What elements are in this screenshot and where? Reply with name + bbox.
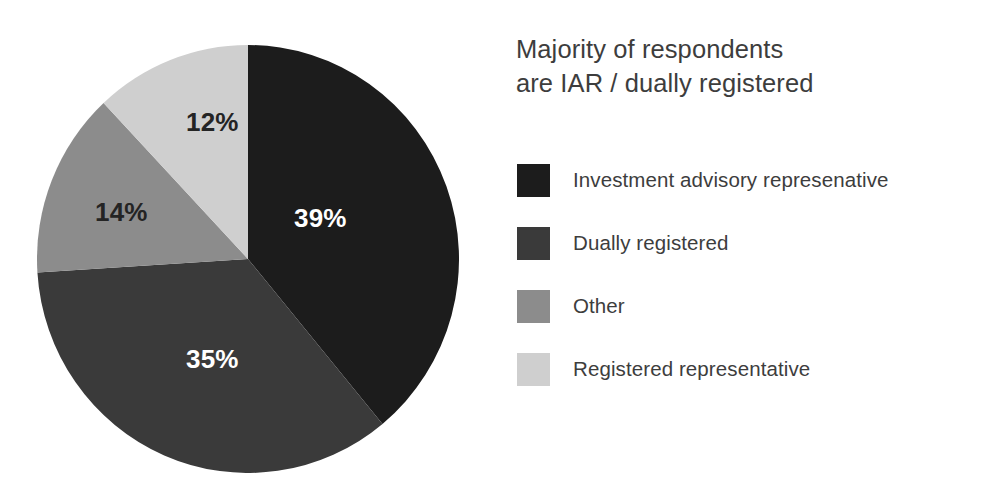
pie-value-label-other: 14%: [95, 199, 148, 225]
chart-title: Majority of respondents are IAR / dually…: [516, 33, 986, 101]
legend-list: Investment advisory represenative Dually…: [517, 154, 997, 406]
legend-swatch-icon: [517, 227, 550, 260]
legend-item-label: Dually registered: [573, 231, 729, 255]
legend-item-dually-registered[interactable]: Dually registered: [517, 217, 997, 269]
legend-item-investment-advisory-represenative[interactable]: Investment advisory represenative: [517, 154, 997, 206]
legend-item-label: Registered representative: [573, 357, 810, 381]
pie-chart-figure: 39% 35% 14% 12%: [0, 0, 500, 496]
legend-item-label: Investment advisory represenative: [573, 168, 889, 192]
legend-panel: Majority of respondents are IAR / dually…: [505, 0, 1004, 496]
legend-swatch-icon: [517, 290, 550, 323]
pie-chart-graphic: [37, 45, 459, 473]
legend-item-other[interactable]: Other: [517, 280, 997, 332]
legend-swatch-icon: [517, 353, 550, 386]
legend-swatch-icon: [517, 164, 550, 197]
chart-title-line-1: Majority of respondents: [516, 33, 986, 67]
chart-title-line-2: are IAR / dually registered: [516, 67, 986, 101]
legend-item-label: Other: [573, 294, 625, 318]
legend-item-registered-representative[interactable]: Registered representative: [517, 343, 997, 395]
pie-value-label-investment-advisory-represenative: 39%: [294, 205, 347, 231]
pie-value-label-registered-representative: 12%: [186, 109, 239, 135]
pie-value-label-dually-registered: 35%: [186, 346, 239, 372]
